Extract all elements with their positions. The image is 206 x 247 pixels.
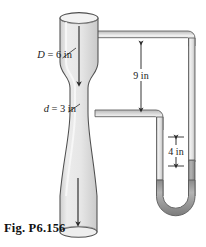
dimension-4in: 4 in <box>165 137 188 166</box>
label-d-value: = 3 in <box>51 103 76 114</box>
label-d-symbol: d <box>44 103 50 114</box>
pipe-top-opening <box>60 13 98 24</box>
dimension-4in-label: 4 in <box>168 146 183 157</box>
manometer-lower-horizontal-tube <box>95 110 163 130</box>
figure-caption: Fig. P6.156 <box>4 221 66 236</box>
dimension-9in: 9 in <box>130 43 153 110</box>
label-D-symbol: D <box>36 49 45 60</box>
dimension-9in-label: 9 in <box>133 70 148 81</box>
manometer-u-bend-mercury <box>157 180 196 216</box>
venturi-manometer-diagram: 9 in 4 in D= 6 in d= 3 in <box>0 0 206 247</box>
manometer-assembly <box>95 31 195 216</box>
manometer-upper-horizontal-tube <box>95 31 195 46</box>
annotation-throat-diameter: d= 3 in <box>44 103 80 114</box>
annotation-upstream-diameter: D= 6 in <box>36 48 76 60</box>
label-throat-diameter: d= 3 in <box>44 103 77 114</box>
figure-container: 9 in 4 in D= 6 in d= 3 in Fig. P6.156 <box>0 0 206 247</box>
manometer-right-limb-water <box>189 38 196 162</box>
label-upstream-diameter: D= 6 in <box>36 49 72 60</box>
label-D-value: = 6 in <box>47 49 72 60</box>
